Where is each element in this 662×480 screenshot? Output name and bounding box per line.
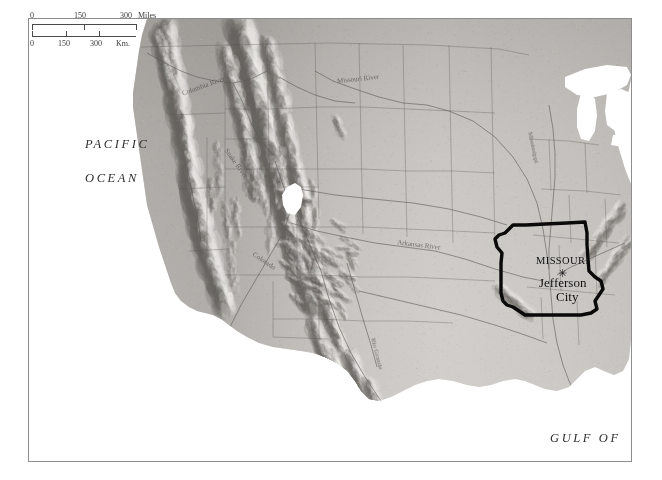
ocean-label-gulf-line1: GULF OF bbox=[550, 431, 621, 446]
scale-bar-miles: 0 150 300 Miles bbox=[28, 13, 178, 30]
scale-miles-tick-2: 300 bbox=[120, 11, 132, 20]
ocean-label-pacific-line1: PACIFIC bbox=[85, 137, 150, 152]
scale-km-tick-1: 150 bbox=[58, 39, 70, 48]
scale-miles-tick-1: 150 bbox=[74, 11, 86, 20]
scale-miles-tick-0: 0 bbox=[30, 11, 34, 20]
scale-bar: 0 150 300 Miles 0 150 300 Km. bbox=[28, 13, 178, 53]
scale-km-tick-0: 0 bbox=[30, 39, 34, 48]
shaded-relief-canvas bbox=[29, 19, 631, 461]
ocean-label-gulf-line2: MEXICO bbox=[556, 459, 619, 462]
map-frame: Columbia River Missouri River Mississipp… bbox=[28, 18, 632, 462]
state-label-missouri: MISSOURI bbox=[536, 255, 589, 266]
scale-km-tick-2: 300 bbox=[90, 39, 102, 48]
scale-km-unit: Km. bbox=[116, 39, 130, 48]
scale-miles-unit: Miles bbox=[138, 11, 156, 20]
scale-bar-km: 0 150 300 Km. bbox=[28, 35, 178, 52]
ocean-label-pacific-line2: OCEAN bbox=[85, 171, 139, 186]
map-page: Columbia River Missouri River Mississipp… bbox=[0, 0, 662, 480]
capital-label-line2: City bbox=[556, 289, 578, 305]
